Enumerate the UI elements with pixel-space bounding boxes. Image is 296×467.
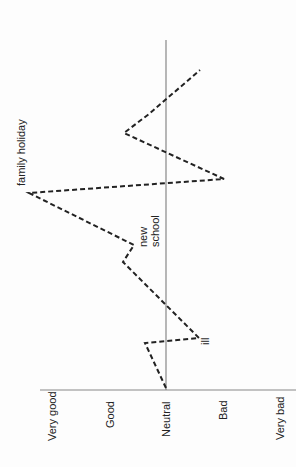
annotation-new: new	[137, 227, 149, 247]
annotation-family-holiday: family holiday	[15, 119, 27, 186]
mood-line	[29, 70, 224, 388]
tick-very-bad: Very bad	[274, 397, 286, 440]
tick-bad: Bad	[217, 400, 229, 420]
tick-good: Good	[104, 401, 116, 428]
mood-chart: Very good Good Neutral Bad Very bad fami…	[0, 0, 296, 467]
annotation-school: school	[149, 215, 161, 247]
tick-neutral: Neutral	[160, 402, 172, 437]
tick-very-good: Very good	[46, 391, 58, 441]
annotation-ill: ill	[199, 338, 211, 345]
